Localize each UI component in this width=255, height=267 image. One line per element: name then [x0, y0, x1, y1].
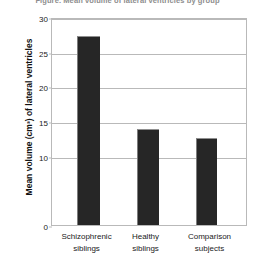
y-tick-label-25: 25 — [39, 49, 48, 58]
gridline-30 — [52, 19, 246, 20]
bar-schizophrenic-siblings — [77, 36, 100, 225]
tick-mark-20 — [49, 88, 52, 89]
y-axis-title: Mean volume (cm³) of lateral ventricles — [22, 27, 36, 207]
y-tick-label-20: 20 — [39, 84, 48, 93]
x-category-line2: siblings — [113, 243, 178, 255]
y-tick-label-10: 10 — [39, 153, 48, 162]
x-category-label-comparison-subjects: Comparison subjects — [171, 231, 248, 254]
bar-healthy-siblings — [137, 129, 159, 225]
plot-area: 30 25 20 15 10 0 — [51, 18, 247, 226]
y-tick-label-30: 30 — [39, 15, 48, 24]
bar-comparison-subjects — [196, 138, 217, 225]
tick-mark-0 — [49, 227, 52, 228]
y-tick-label-15: 15 — [39, 119, 48, 128]
x-category-line1: Comparison — [188, 232, 231, 241]
tick-mark-15 — [49, 123, 52, 124]
bar-chart-figure: Figure. Mean volume of lateral ventricle… — [0, 0, 255, 267]
x-category-line1: Healthy — [132, 232, 159, 241]
chart-title-cropped: Figure. Mean volume of lateral ventricle… — [0, 0, 255, 5]
tick-mark-10 — [49, 157, 52, 158]
x-category-line2: subjects — [171, 243, 248, 255]
x-category-line1: Schizophrenic — [61, 232, 111, 241]
x-category-label-healthy-siblings: Healthy siblings — [113, 231, 178, 254]
tick-mark-30 — [49, 19, 52, 20]
tick-mark-25 — [49, 53, 52, 54]
